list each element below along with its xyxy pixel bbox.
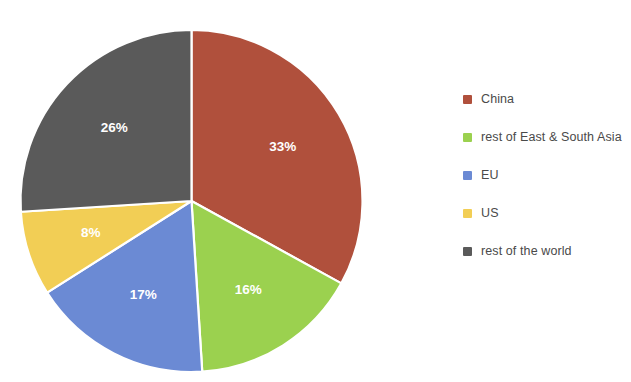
legend-item[interactable]: EU [463, 156, 631, 194]
pie-chart-plot-area: 33%16%17%8%26% [0, 0, 400, 382]
legend-item-label: rest of East & South Asia [481, 130, 622, 144]
legend-swatch-icon [463, 209, 472, 218]
pie-slices-group [21, 30, 363, 372]
legend-item[interactable]: China [463, 80, 631, 118]
legend-item[interactable]: rest of the world [463, 232, 631, 270]
legend-swatch-icon [463, 133, 472, 142]
pie-slice-value-label: 26% [101, 120, 128, 135]
legend-swatch-icon [463, 171, 472, 180]
legend-item-label: EU [481, 168, 499, 182]
legend-item-label: rest of the world [481, 244, 572, 258]
legend-item[interactable]: US [463, 194, 631, 232]
legend-swatch-icon [463, 95, 472, 104]
legend-swatch-icon [463, 247, 472, 256]
pie-slice-value-label: 17% [130, 287, 157, 302]
pie-slice-value-label: 8% [81, 225, 101, 240]
pie-slice-value-label: 33% [269, 139, 296, 154]
chart-legend: Chinarest of East & South AsiaEUUSrest o… [463, 80, 631, 270]
pie-slice-value-label: 16% [235, 282, 262, 297]
pie-chart-svg: 33%16%17%8%26% [0, 0, 400, 382]
pie-chart-screenshot: 33%16%17%8%26% Chinarest of East & South… [0, 0, 631, 382]
legend-item-label: US [481, 206, 499, 220]
legend-item[interactable]: rest of East & South Asia [463, 118, 631, 156]
legend-item-label: China [481, 92, 514, 106]
